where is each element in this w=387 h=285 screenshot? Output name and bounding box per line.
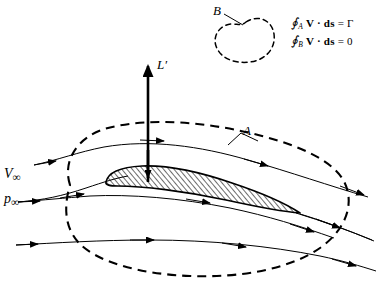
- pressure-symbol: p: [4, 191, 11, 206]
- streamline-arrowheads: [16, 140, 364, 266]
- line-element-b: ds: [324, 35, 335, 47]
- circulation-result-a: Γ: [347, 17, 354, 29]
- infinity-subscript-v: ∞: [13, 171, 21, 183]
- streamline-lower-1: [18, 196, 334, 239]
- velocity-vector-a: V: [306, 17, 314, 29]
- velocity-vector-b: V: [306, 35, 314, 47]
- freestream-velocity-label: V∞: [4, 167, 21, 183]
- equals-sign-b: =: [338, 35, 344, 47]
- contour-a-label: A: [243, 124, 251, 137]
- lift-label: L′: [157, 58, 167, 71]
- integral-subscript-b: B: [298, 40, 303, 49]
- equals-sign-a: =: [338, 17, 344, 29]
- contour-b-leader-line: [224, 14, 243, 25]
- streamline-trailing: [296, 213, 374, 241]
- figure-root: L′ A B V∞ p∞ ∮A V · ds = Γ ∮B V · ds = 0: [0, 0, 387, 285]
- infinity-subscript-p: ∞: [11, 196, 19, 208]
- airfoil-section: [106, 166, 300, 213]
- lift-label-prime: ′: [164, 57, 167, 72]
- equation-circulation-b: ∮B V · ds = 0: [291, 34, 353, 49]
- line-element-a: ds: [324, 17, 335, 29]
- velocity-symbol: V: [4, 166, 13, 181]
- streamline-lower-2: [16, 240, 376, 271]
- circulation-result-b: 0: [347, 35, 353, 47]
- dot-product-operator-a: ·: [317, 17, 321, 29]
- contour-b-dashed-loop: [215, 18, 274, 62]
- integral-subscript-a: A: [298, 22, 303, 31]
- dot-product-operator-b: ·: [317, 35, 321, 47]
- equation-circulation-a: ∮A V · ds = Γ: [291, 16, 354, 31]
- contour-b-label: B: [213, 4, 221, 17]
- freestream-pressure-label: p∞: [4, 192, 19, 208]
